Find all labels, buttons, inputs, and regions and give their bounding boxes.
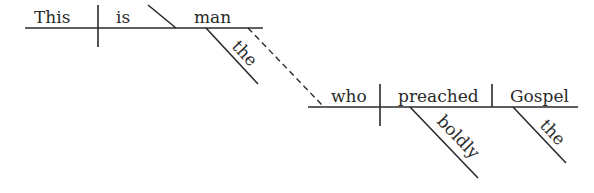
complement-divider — [148, 5, 176, 28]
word-relative-object: Gospel — [510, 86, 569, 106]
word-subject: This — [34, 7, 70, 27]
word-object-modifier: the — [536, 115, 570, 149]
word-relative-verb: preached — [398, 86, 479, 106]
word-verb-modifier: boldly — [433, 111, 484, 163]
relative-connector — [248, 28, 323, 106]
sentence-diagram: This is man the who preached Gospel bold… — [0, 0, 594, 193]
word-relative-subject: who — [331, 86, 367, 106]
word-complement-modifier: the — [228, 36, 262, 70]
word-verb: is — [116, 7, 130, 27]
word-complement: man — [194, 7, 231, 27]
